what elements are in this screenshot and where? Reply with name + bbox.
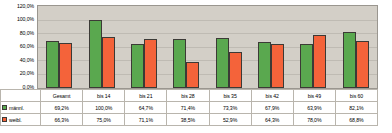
table-value-cell: 73,3% [209,102,251,114]
table-value-cell: 68,8% [335,114,377,126]
bar-maennl [300,44,313,88]
table-value-cell: 64,3% [251,114,293,126]
bar-group [38,6,80,88]
legend-item-weibl[interactable]: weibl. [1,114,41,126]
table-value-cell: 38,5% [167,114,209,126]
bar-group [292,6,334,88]
bar-weibl [271,44,284,88]
bar-weibl [313,35,326,88]
table-value-cell: 82,1% [335,102,377,114]
y-axis-tick: 40,0% [20,57,34,62]
legend-label: weibl. [9,117,22,123]
category-header-cell: bis 28 [167,90,209,102]
bar-maennl [173,39,186,88]
bar-weibl [144,39,157,88]
bar-weibl [102,37,115,88]
y-axis-tick: 60,0% [20,44,34,49]
chart-container: 120,0% 100,0% 80,0% 60,0% 40,0% 20,0% 0,… [0,0,392,133]
table-value-cell: 75,0% [83,114,125,126]
bar-maennl [216,38,229,88]
bar-weibl [356,41,369,88]
category-header-cell: bis 42 [251,90,293,102]
table-row: männl.69,2%100,0%64,7%71,4%73,3%67,9%63,… [1,102,378,114]
table-value-cell: 63,9% [293,102,335,114]
table-value-cell: 71,1% [125,114,167,126]
data-table-wrapper: Gesamtbis 14bis 21bis 28bis 35bis 42bis … [0,89,392,131]
y-axis-tick: 80,0% [20,30,34,35]
green-swatch-icon [2,105,7,110]
table-value-cell: 52,9% [209,114,251,126]
table-value-cell: 71,4% [167,102,209,114]
table-value-cell: 66,3% [41,114,83,126]
bar-maennl [46,41,59,88]
table-row: weibl.66,3%75,0%71,1%38,5%52,9%64,3%78,0… [1,114,378,126]
table-value-cell: 64,7% [125,102,167,114]
bar-maennl [89,20,102,88]
legend-item-maennl[interactable]: männl. [1,102,41,114]
category-header-cell: bis 49 [293,90,335,102]
category-header-cell: bis 60 [335,90,377,102]
y-axis-tick: 100,0% [17,17,34,22]
table-header-row: Gesamtbis 14bis 21bis 28bis 35bis 42bis … [1,90,378,102]
y-axis: 120,0% 100,0% 80,0% 60,0% 40,0% 20,0% 0,… [0,0,36,96]
table-value-cell: 100,0% [83,102,125,114]
bar-weibl [186,62,199,88]
bar-maennl [258,42,271,88]
category-header-cell: bis 21 [125,90,167,102]
table-value-cell: 78,0% [293,114,335,126]
bar-group [335,6,377,88]
bar-group [80,6,122,88]
bar-group [123,6,165,88]
bars-layer [38,6,377,88]
category-header-cell: Gesamt [41,90,83,102]
bar-group [208,6,250,88]
bar-group [250,6,292,88]
bar-weibl [59,43,72,88]
bar-group [165,6,207,88]
y-axis-tick: 20,0% [20,71,34,76]
table-value-cell: 67,9% [251,102,293,114]
category-header-cell: bis 35 [209,90,251,102]
bar-maennl [343,32,356,88]
y-axis-tick: 120,0% [17,3,34,8]
plot-wrapper: 120,0% 100,0% 80,0% 60,0% 40,0% 20,0% 0,… [0,0,392,96]
orange-swatch-icon [2,117,7,122]
category-header-cell: bis 14 [83,90,125,102]
table-corner-cell [1,90,41,102]
data-table: Gesamtbis 14bis 21bis 28bis 35bis 42bis … [0,89,378,126]
plot-area [37,5,378,89]
table-value-cell: 69,2% [41,102,83,114]
bar-maennl [131,44,144,88]
legend-label: männl. [9,105,24,111]
bar-weibl [229,52,242,88]
